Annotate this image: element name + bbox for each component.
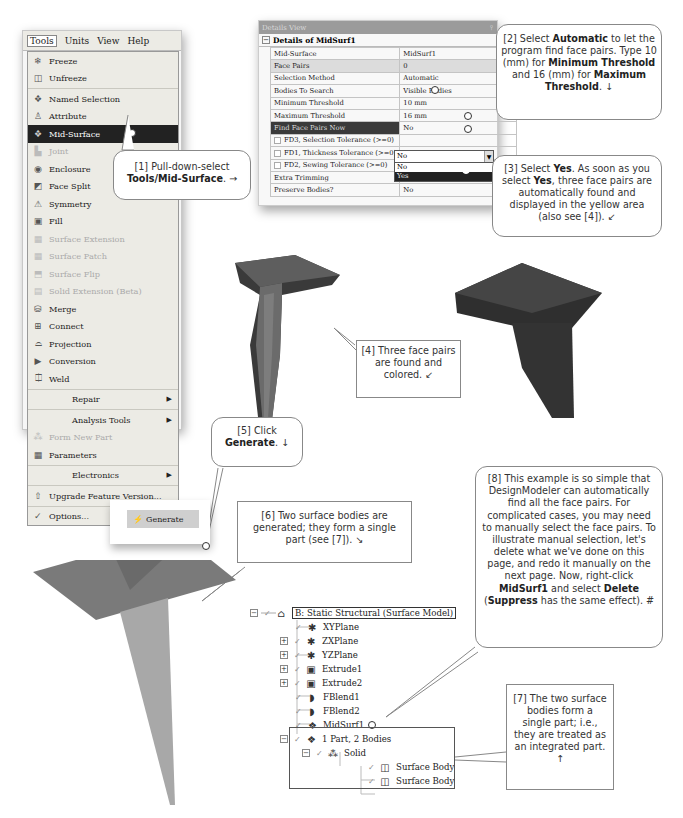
plane-icon: ✱: [305, 621, 319, 633]
generate-button[interactable]: ⚡ Generate: [127, 510, 199, 528]
fd3-checkbox[interactable]: [274, 137, 281, 144]
row-bodies-to-search: Bodies To SearchVisible Bodies: [271, 85, 517, 97]
check-icon: ✓: [295, 693, 302, 702]
blend-icon: ◗: [305, 705, 319, 717]
generate-screenshot: ⚡ Generate: [110, 500, 210, 544]
tree-node-xyplane[interactable]: ✓✱XYPlane: [295, 620, 359, 634]
row-maximum-threshold: Maximum Threshold16 mm: [271, 109, 517, 121]
expand-icon[interactable]: +: [280, 665, 288, 673]
row-preserve-bodies: Preserve Bodies?No: [271, 184, 517, 196]
lightning-icon: ⚡: [133, 515, 143, 524]
dropdown-current[interactable]: No▼: [395, 151, 493, 162]
fd2-checkbox[interactable]: [274, 162, 281, 169]
solid-model: [452, 258, 602, 418]
row-mid-surface: Mid-SurfaceMidSurf1: [271, 48, 517, 60]
callout-3: [3] Select Yes. As soon as you select Ye…: [492, 155, 662, 237]
blend-icon: ◗: [305, 691, 319, 703]
callout-anchor-dot: [431, 86, 439, 94]
row-fd3: FD3, Selection Tolerance (>=0): [271, 134, 517, 146]
surface-model: [30, 560, 240, 805]
tree-node-yzplane[interactable]: +✓✱YZPlane: [280, 648, 358, 662]
check-icon: ✓: [294, 665, 301, 674]
expand-icon[interactable]: +: [280, 637, 288, 645]
row-selection-method: Selection MethodAutomatic: [271, 72, 517, 84]
callout-6: [6] Two surface bodies are generated; th…: [237, 501, 412, 563]
tree-node-root[interactable]: −✓⌂B: Static Structural (Surface Model): [250, 606, 456, 620]
check-icon: ✓: [294, 679, 301, 688]
callout-anchor-dot: [464, 125, 472, 133]
callout-4: [4] Three face pairs are found and color…: [356, 340, 461, 398]
row-find-face-pairs-now: Find Face Pairs NowNo: [271, 122, 517, 134]
find-face-pairs-options: No Yes: [394, 162, 494, 182]
callout-anchor-dot: [202, 542, 210, 550]
expand-icon[interactable]: +: [280, 651, 288, 659]
tree-node-fblend2[interactable]: ✓◗FBlend2: [295, 704, 360, 718]
option-yes[interactable]: Yes: [395, 172, 493, 181]
callout-2: [2] Select Automatic to let the program …: [496, 24, 662, 120]
check-icon: ✓: [264, 609, 271, 618]
plane-icon: ✱: [304, 635, 318, 647]
collapse-icon[interactable]: −: [262, 36, 270, 44]
fd1-checkbox[interactable]: [274, 150, 281, 157]
expand-icon[interactable]: +: [280, 679, 288, 687]
dropdown-arrow-icon[interactable]: ▼: [484, 151, 493, 162]
check-icon: ✓: [295, 623, 302, 632]
option-no[interactable]: No: [395, 163, 493, 172]
collapse-icon[interactable]: −: [280, 735, 288, 743]
details-header: −Details of MidSurf1: [259, 34, 497, 47]
check-icon: ✓: [294, 651, 301, 660]
callout-5: [5] Click Generate. ↓: [211, 417, 303, 467]
collapse-icon[interactable]: −: [250, 609, 258, 617]
tree-node-fblend1[interactable]: ✓◗FBlend1: [295, 690, 360, 704]
pin-icon[interactable]: ⫯: [490, 24, 493, 32]
row-minimum-threshold: Minimum Threshold10 mm: [271, 97, 517, 109]
callout-anchor-dot: [462, 166, 470, 174]
model-icon: ⌂: [274, 607, 288, 619]
check-icon: ✓: [295, 707, 302, 716]
find-face-pairs-select[interactable]: No: [400, 122, 517, 134]
callout-7: [7] The two surface bodies form a single…: [506, 684, 614, 790]
callout-anchor-dot: [464, 112, 472, 120]
part-highlight-box: [289, 727, 455, 789]
check-icon: ✓: [294, 637, 301, 646]
tree-node-extrude1[interactable]: +✓▣Extrude1: [280, 662, 362, 676]
tree-node-zxplane[interactable]: +✓✱ZXPlane: [280, 634, 358, 648]
extrude-icon: ▣: [304, 677, 318, 689]
plane-icon: ✱: [304, 649, 318, 661]
details-view-titlebar: Details View⫯: [259, 21, 497, 34]
extrude-icon: ▣: [304, 663, 318, 675]
tree-node-extrude2[interactable]: +✓▣Extrude2: [280, 676, 362, 690]
row-face-pairs: Face Pairs0: [271, 60, 517, 72]
solid-model-face-pairs: [220, 255, 350, 440]
callout-8: [8] This example is so simple that Desig…: [475, 466, 663, 648]
details-view-screenshot: Details View⫯ −Details of MidSurf1 Mid-S…: [258, 20, 498, 206]
